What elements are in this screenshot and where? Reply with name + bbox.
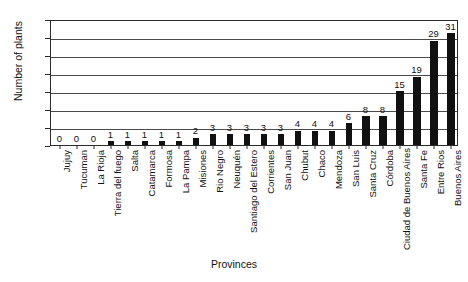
x-axis-title: Provinces [0, 258, 468, 270]
bar-value-label: 31 [445, 22, 456, 32]
bar-item: 4 [306, 21, 323, 145]
bar-value-label: 15 [394, 80, 405, 90]
bar-chart: Number of plants 05101520253035 00011111… [0, 0, 468, 282]
x-axis-tick-label: Santa Cruz [368, 150, 377, 250]
bar-value-label: 3 [261, 123, 266, 133]
bar-item: 0 [51, 21, 68, 145]
bar-item: 1 [136, 21, 153, 145]
bar-value-label: 1 [142, 130, 147, 140]
x-axis-tick-label: Rio Negro [215, 150, 224, 250]
bar-value-label: 1 [125, 130, 130, 140]
bar-value-label: 19 [411, 65, 422, 75]
x-axis-tick-mark [144, 145, 145, 149]
x-axis-tick-mark [365, 145, 366, 149]
bar-value-label: 4 [329, 119, 334, 129]
y-axis-tick-mark [45, 146, 50, 147]
bar [227, 134, 233, 145]
bar-item: 1 [170, 21, 187, 145]
bar-item: 15 [391, 21, 408, 145]
bar [193, 138, 199, 145]
bar-value-label: 4 [295, 119, 300, 129]
bar-value-label: 0 [91, 134, 96, 144]
x-axis-tick-mark [433, 145, 434, 149]
bar-value-label: 3 [227, 123, 232, 133]
plot-area: 0001111123333344468815192931 [50, 20, 458, 146]
x-axis-tick-mark [399, 145, 400, 149]
bar-value-label: 3 [244, 123, 249, 133]
x-axis-tick-label: Tucuman [79, 150, 88, 250]
x-axis-tick-label: Tierra del fuego [113, 150, 122, 250]
bar-item: 3 [255, 21, 272, 145]
bar [295, 131, 301, 145]
bar-value-label: 1 [176, 130, 181, 140]
bar [261, 134, 267, 145]
x-axis-tick-label: Corrientes [266, 150, 275, 250]
bar [210, 134, 216, 145]
bar-item: 1 [119, 21, 136, 145]
x-axis-tick-label: Santiago del Estero [249, 150, 258, 250]
bar-value-label: 8 [363, 105, 368, 115]
x-axis-tick-label: Buenos Aires [453, 150, 462, 250]
x-axis-tick-mark [263, 145, 264, 149]
x-axis-tick-label: Neuquén [232, 150, 241, 250]
x-axis-tick-mark [246, 145, 247, 149]
x-axis-tick-mark [229, 145, 230, 149]
bar-value-label: 6 [346, 112, 351, 122]
bar-value-label: 0 [74, 134, 79, 144]
x-axis-tick-mark [76, 145, 77, 149]
bar-value-label: 29 [428, 29, 439, 39]
x-axis-tick-mark [195, 145, 196, 149]
bar-item: 29 [425, 21, 442, 145]
bar-item: 1 [153, 21, 170, 145]
bar-value-label: 0 [57, 134, 62, 144]
bar [413, 77, 421, 145]
bar-series: 0001111123333344468815192931 [51, 21, 457, 145]
x-axis-tick-mark [127, 145, 128, 149]
x-axis-tick-mark [314, 145, 315, 149]
x-axis-tick-mark [212, 145, 213, 149]
bar-item: 3 [272, 21, 289, 145]
bar-item: 31 [442, 21, 459, 145]
x-axis-tick-label: Catamarca [147, 150, 156, 250]
bar-item: 6 [340, 21, 357, 145]
x-axis-tick-mark [416, 145, 417, 149]
bar-item: 8 [374, 21, 391, 145]
x-axis-tick-label: Salta [130, 150, 139, 250]
bar-item: 3 [238, 21, 255, 145]
bar [278, 134, 284, 145]
bar [362, 116, 370, 145]
bar-item: 1 [102, 21, 119, 145]
bar-item: 0 [85, 21, 102, 145]
x-axis-tick-mark [297, 145, 298, 149]
x-axis-tick-label: Chaco [317, 150, 326, 250]
bar-value-label: 4 [312, 119, 317, 129]
x-axis-tick-mark [161, 145, 162, 149]
bar [430, 41, 438, 145]
x-axis-tick-mark [93, 145, 94, 149]
x-axis-tick-label: San Luis [351, 150, 360, 250]
bar-item: 2 [187, 21, 204, 145]
x-axis-tick-label: San Juan [283, 150, 292, 250]
x-axis-tick-label: Entre Rios [436, 150, 445, 250]
bar-item: 4 [323, 21, 340, 145]
x-axis-tick-mark [382, 145, 383, 149]
bar-item: 4 [289, 21, 306, 145]
bar [312, 131, 318, 145]
x-axis-tick-label: Chubut [300, 150, 309, 250]
bar [379, 116, 387, 145]
bar-value-label: 1 [159, 130, 164, 140]
x-axis-tick-label: La Pampa [181, 150, 190, 250]
x-axis-tick-label: Córdoba [385, 150, 394, 250]
bar-value-label: 1 [108, 130, 113, 140]
bar [447, 33, 455, 145]
x-axis-tick-mark [178, 145, 179, 149]
bar-value-label: 3 [210, 123, 215, 133]
x-axis-tick-mark [280, 145, 281, 149]
bar-item: 19 [408, 21, 425, 145]
x-axis-tick-label: Mendoza [334, 150, 343, 250]
x-axis-tick-label: Ciudad de Buenos Aires [402, 150, 411, 250]
bar [346, 123, 352, 145]
bar-item: 0 [68, 21, 85, 145]
x-axis-tick-label: Santa Fe [419, 150, 428, 250]
bar-item: 8 [357, 21, 374, 145]
